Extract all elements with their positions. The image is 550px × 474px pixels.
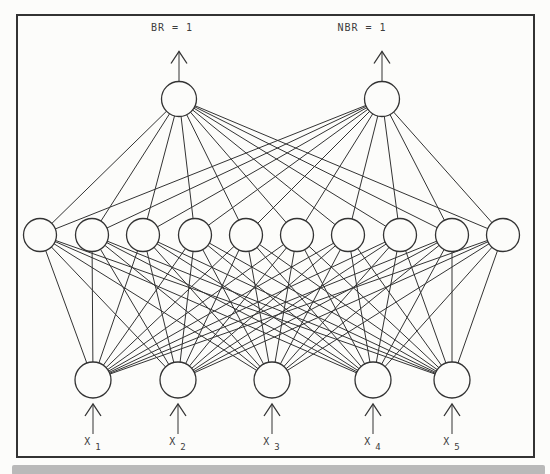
input-node <box>355 362 391 398</box>
input-label-x4: X4 <box>364 436 381 447</box>
connection-line <box>179 99 195 235</box>
connection-line <box>272 235 503 380</box>
connection-line <box>452 235 503 380</box>
connection-line <box>272 235 400 380</box>
connection-line <box>382 99 400 235</box>
input-label-subscript: 5 <box>454 442 460 452</box>
connection-line <box>348 235 373 380</box>
input-label-base: X <box>364 436 371 447</box>
hidden-node <box>384 219 417 252</box>
hidden-node <box>332 219 365 252</box>
scanned-figure-page: BR = 1 NBR = 1 X1X2X3X4X5 <box>0 0 550 474</box>
output-node <box>365 82 400 117</box>
connection-line <box>348 235 452 380</box>
input-label-subscript: 4 <box>375 442 381 452</box>
connection-line <box>195 99 382 235</box>
connection-line <box>272 235 297 380</box>
input-node <box>254 362 290 398</box>
connection-line <box>92 235 93 380</box>
connection-line <box>143 235 272 380</box>
connection-line <box>373 235 400 380</box>
input-label-x2: X2 <box>169 436 186 447</box>
connection-line <box>382 99 452 235</box>
connection-line <box>297 235 452 380</box>
input-label-x3: X3 <box>263 436 280 447</box>
connection-line <box>40 99 179 235</box>
input-label-base: X <box>263 436 270 447</box>
hidden-node <box>436 219 469 252</box>
connection-line <box>178 235 400 380</box>
hidden-node <box>230 219 263 252</box>
input-label-base: X <box>84 436 91 447</box>
connection-line <box>40 99 382 235</box>
connection-line <box>178 235 452 380</box>
connection-line <box>246 235 272 380</box>
connection-line <box>40 235 178 380</box>
hidden-node <box>24 219 57 252</box>
hidden-node <box>179 219 212 252</box>
output-label-nbr: NBR = 1 <box>337 22 386 33</box>
input-label-x1: X1 <box>84 436 101 447</box>
hidden-node <box>127 219 160 252</box>
connection-line <box>382 99 503 235</box>
hidden-node <box>281 219 314 252</box>
input-node <box>160 362 196 398</box>
input-node <box>75 362 111 398</box>
connection-line <box>40 235 93 380</box>
bottom-gray-bar <box>12 465 545 474</box>
connection-line <box>179 99 503 235</box>
connection-line <box>373 235 503 380</box>
output-node <box>162 82 197 117</box>
connection-line <box>93 235 246 380</box>
input-label-base: X <box>443 436 450 447</box>
connection-line <box>178 235 503 380</box>
input-node <box>434 362 470 398</box>
input-label-base: X <box>169 436 176 447</box>
connection-line <box>400 235 452 380</box>
connection-line <box>143 235 178 380</box>
hidden-node <box>487 219 520 252</box>
output-label-br: BR = 1 <box>151 22 193 33</box>
connection-line <box>93 235 503 380</box>
input-label-x5: X5 <box>443 436 460 447</box>
hidden-node <box>76 219 109 252</box>
input-label-subscript: 3 <box>274 442 280 452</box>
connection-line <box>246 99 382 235</box>
input-label-subscript: 1 <box>95 442 101 452</box>
connection-line <box>143 99 382 235</box>
connection-line <box>93 235 195 380</box>
connection-line <box>178 235 195 380</box>
input-label-subscript: 2 <box>180 442 186 452</box>
neural-network-diagram <box>0 0 550 474</box>
connection-line <box>143 99 179 235</box>
connection-line <box>179 99 452 235</box>
connection-line <box>92 235 373 380</box>
connection-line <box>246 235 452 380</box>
connection-line <box>143 235 373 380</box>
connection-line <box>93 235 297 380</box>
